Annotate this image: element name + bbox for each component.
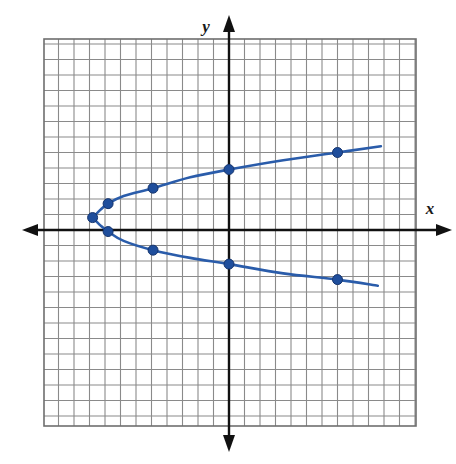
data-point bbox=[333, 275, 343, 285]
data-point bbox=[333, 148, 343, 158]
data-point bbox=[103, 227, 113, 237]
coordinate-graph-figure: y x bbox=[0, 0, 456, 464]
data-point bbox=[148, 245, 158, 255]
data-point bbox=[88, 213, 98, 223]
data-point bbox=[224, 259, 234, 269]
data-point bbox=[103, 199, 113, 209]
x-axis-label: x bbox=[425, 199, 435, 218]
data-point bbox=[224, 165, 234, 175]
data-point bbox=[148, 183, 158, 193]
y-axis-label: y bbox=[200, 17, 210, 36]
